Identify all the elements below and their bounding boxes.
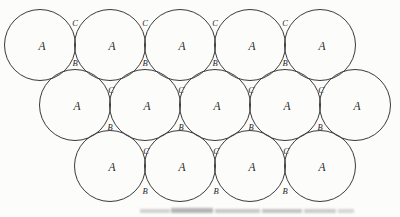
cutoff-text-fragment (171, 208, 213, 213)
sphere-label-A: A (177, 161, 186, 173)
void-label-C: C (108, 85, 114, 95)
sphere-label-A: A (212, 100, 221, 112)
cutoff-text-fragment (304, 209, 336, 213)
figure-canvas: AAAAAAAAAAAAAACCCCBBBBCCCCBBBBCCCBBB (0, 0, 400, 217)
void-label-C: C (283, 146, 289, 156)
sphere-label-A: A (352, 100, 361, 112)
sphere-label-A: A (37, 40, 46, 52)
void-label-B: B (107, 122, 112, 132)
void-label-C: C (142, 18, 148, 28)
void-label-C: C (72, 18, 78, 28)
void-label-C: C (213, 146, 219, 156)
sphere-label-A: A (282, 100, 291, 112)
void-label-C: C (318, 85, 324, 95)
void-label-B: B (317, 122, 322, 132)
cutoff-text-fragment (215, 209, 260, 213)
sphere-label-A: A (177, 40, 186, 52)
sphere-label-A: A (247, 161, 256, 173)
void-label-B: B (248, 122, 253, 132)
void-label-B: B (142, 186, 147, 196)
void-label-C: C (178, 85, 184, 95)
sphere-label-A: A (142, 100, 151, 112)
sphere-label-A: A (317, 161, 326, 173)
sphere-label-A: A (107, 161, 116, 173)
void-label-B: B (178, 122, 183, 132)
void-label-B: B (142, 58, 147, 68)
cutoff-text-fragment (140, 209, 170, 213)
cutoff-text-fragment (338, 209, 354, 213)
void-label-B: B (282, 58, 287, 68)
page-background (0, 0, 400, 217)
sphere-label-A: A (247, 40, 256, 52)
void-label-C: C (282, 18, 288, 28)
void-label-B: B (212, 58, 217, 68)
sphere-label-A: A (72, 100, 81, 112)
sphere-label-A: A (317, 40, 326, 52)
close-packing-diagram: AAAAAAAAAAAAAACCCCBBBBCCCCBBBBCCCBBB (0, 0, 400, 217)
cutoff-text-fragment (262, 209, 302, 213)
void-label-B: B (213, 186, 218, 196)
void-label-C: C (212, 18, 218, 28)
sphere-label-A: A (107, 40, 116, 52)
void-label-B: B (72, 58, 77, 68)
void-label-C: C (143, 146, 149, 156)
void-label-B: B (282, 186, 287, 196)
void-label-C: C (248, 85, 254, 95)
